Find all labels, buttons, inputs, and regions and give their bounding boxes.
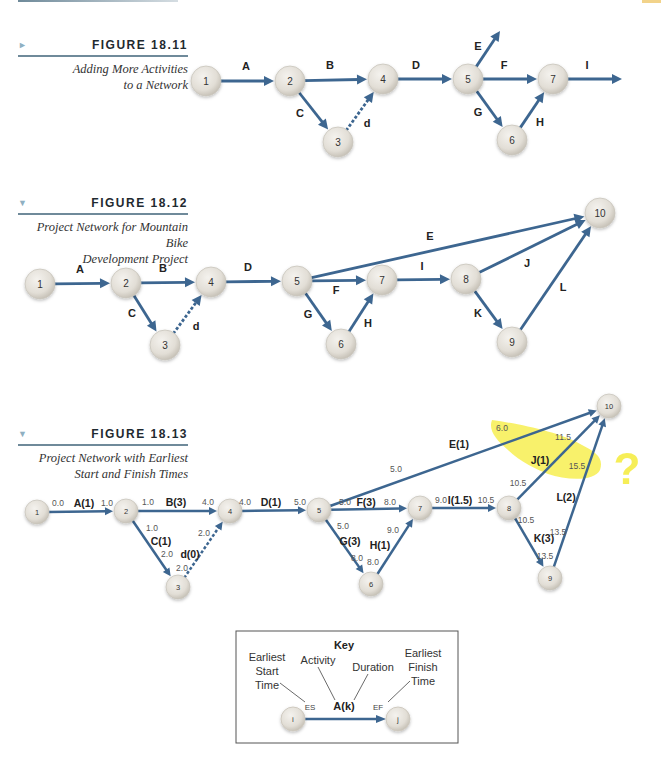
activity-label: I(1.5) xyxy=(448,494,473,506)
node-number: 5 xyxy=(317,506,321,515)
activity-arrow-b xyxy=(140,282,187,283)
activity-label: D(1) xyxy=(261,496,281,508)
node-number: 8 xyxy=(507,504,511,513)
earliest-start-time: 10.5 xyxy=(510,478,527,488)
earliest-start-time: 2.0 xyxy=(176,563,188,573)
arrowhead-icon xyxy=(488,504,496,512)
activity-label: A xyxy=(76,263,84,275)
activity-label: B(3) xyxy=(166,496,186,508)
earliest-start-time: 9.0 xyxy=(435,495,447,505)
arrowhead-icon xyxy=(105,507,113,515)
activity-label: E(1) xyxy=(449,438,469,450)
earliest-finish-time: 8.0 xyxy=(351,553,363,563)
node-number: 2 xyxy=(287,76,293,87)
earliest-finish-time: 9.0 xyxy=(387,525,399,535)
activity-arrow-a1 xyxy=(48,511,107,512)
activity-label: D xyxy=(244,261,252,273)
earliest-start-time: 5.0 xyxy=(390,464,402,474)
activity-label: C xyxy=(296,107,304,119)
earliest-start-time: 0.0 xyxy=(52,498,64,508)
key-node-i-label: i xyxy=(292,715,294,724)
key-es-label-2: Start xyxy=(255,665,278,677)
arrowhead-icon xyxy=(271,276,281,286)
activity-label: d xyxy=(364,117,371,129)
node-number: 4 xyxy=(380,74,386,85)
activity-label: G xyxy=(474,106,483,118)
activity-label: J xyxy=(524,257,530,269)
earliest-start-time: 5.0 xyxy=(337,521,349,531)
node-number: 6 xyxy=(338,339,344,350)
arrowhead-icon xyxy=(399,504,407,512)
arrowhead-icon xyxy=(356,275,366,285)
activity-label: J(1) xyxy=(531,454,550,466)
node-number: 3 xyxy=(162,340,168,351)
activity-label: F(3) xyxy=(356,496,375,508)
earliest-start-time: 5.0 xyxy=(339,497,351,507)
activity-arrow-f3 xyxy=(330,508,401,509)
node-number: 3 xyxy=(335,137,341,148)
node-number: 7 xyxy=(379,275,385,286)
activity-label: A xyxy=(242,60,250,72)
activity-label: F xyxy=(333,284,340,296)
activity-arrow-d xyxy=(225,281,273,282)
handwritten-question-mark: ? xyxy=(614,444,641,493)
key-ef-label-1: Earliest xyxy=(405,647,442,659)
activity-label: D xyxy=(412,59,420,71)
activity-arrow-c xyxy=(133,295,152,325)
activity-arrow-a xyxy=(54,283,102,284)
activity-label: H(1) xyxy=(370,539,390,551)
node-number: 1 xyxy=(203,76,209,87)
node-number: 7 xyxy=(550,74,556,85)
key-es-label-3: Time xyxy=(255,679,279,691)
earliest-finish-time: 13.5 xyxy=(537,551,554,561)
node-number: 3 xyxy=(176,583,180,592)
node-number: 10 xyxy=(605,402,613,411)
node-number: 7 xyxy=(418,504,422,513)
arrowhead-icon xyxy=(364,92,374,103)
figure-18-12-network: 12457836910ABCdDFGHEIJKL xyxy=(25,198,615,360)
key-ef-label-2: Finish xyxy=(408,661,437,673)
earliest-start-time: 13.5 xyxy=(550,527,567,537)
activity-label: d xyxy=(193,320,200,332)
arrowhead-icon xyxy=(298,506,306,514)
arrowhead-icon xyxy=(598,418,606,427)
activity-label: I xyxy=(420,260,423,272)
activity-label: E xyxy=(474,40,481,52)
activity-label: H xyxy=(364,317,372,329)
activity-label: G(3) xyxy=(340,535,361,547)
node-number: 2 xyxy=(123,278,129,289)
node-number: 1 xyxy=(35,508,39,517)
arrowhead-icon xyxy=(612,74,622,84)
arrowhead-icon xyxy=(527,74,537,84)
key-node-j-label: j xyxy=(396,715,399,724)
arrowhead-icon xyxy=(264,76,274,86)
earliest-finish-time: 11.5 xyxy=(555,432,571,442)
nodes: 12457836910 xyxy=(25,394,621,599)
key-duration-label: Duration xyxy=(352,661,394,673)
arrowhead-icon xyxy=(442,74,452,84)
activity-label: C xyxy=(128,307,136,319)
activity-label: I xyxy=(585,59,588,71)
arrowhead-icon xyxy=(440,274,450,284)
activity-arrow-i xyxy=(396,279,442,280)
earliest-finish-time: 2.0 xyxy=(198,528,210,538)
activity-arrow-d1 xyxy=(241,510,300,511)
activity-label: K xyxy=(474,307,482,319)
activity-arrow-e xyxy=(311,218,577,278)
key-activity: A(k) xyxy=(333,700,355,712)
arrowhead-icon xyxy=(209,507,217,515)
activity-label: A(1) xyxy=(74,497,94,509)
figure-18-13-network: 12457836910A(1)0.01.0B(3)1.04.0C(1)1.02.… xyxy=(25,394,621,599)
node-number: 6 xyxy=(369,580,373,589)
nodes: 12457836910 xyxy=(25,198,615,360)
network-diagrams: ? 1245736ABCdDFGHEI 12457836910ABCdDFGHE… xyxy=(0,0,661,763)
activity-arrow-f xyxy=(311,280,358,281)
earliest-start-time: 4.0 xyxy=(239,497,251,507)
figure-18-11-network: 1245736ABCdDFGHEI xyxy=(191,31,622,157)
activity-label: E xyxy=(426,230,433,242)
arrowhead-icon xyxy=(357,75,367,85)
activity-label: L(2) xyxy=(556,491,575,503)
activity-arrow-b xyxy=(304,80,359,81)
earliest-finish-time: 8.0 xyxy=(384,497,396,507)
earliest-finish-time: 10.5 xyxy=(478,495,495,505)
